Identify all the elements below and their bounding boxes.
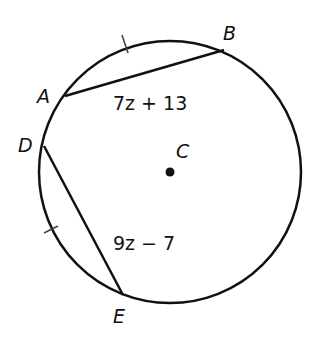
center-point-c (166, 168, 175, 177)
label-a: A (35, 85, 50, 107)
label-b: B (223, 22, 236, 44)
label-c: C (176, 140, 190, 162)
chord-de (44, 146, 123, 295)
label-e: E (113, 305, 125, 327)
diagram-canvas: A B D E C 7z + 13 9z − 7 (0, 0, 318, 345)
label-d: D (18, 134, 33, 156)
circle-chord-diagram: A B D E C 7z + 13 9z − 7 (0, 0, 318, 345)
chord-ab (65, 50, 224, 96)
chord-ab-length: 7z + 13 (113, 92, 187, 114)
chord-de-length: 9z − 7 (113, 232, 175, 254)
